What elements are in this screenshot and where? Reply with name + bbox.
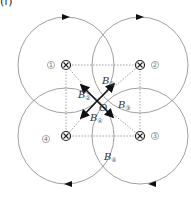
wire-2 [136,61,145,70]
wire-label-1: 1 [49,61,53,68]
magnetic-field-diagram: 1 2 3 4 O B① B② B③ B④ B④ [0,0,191,199]
wire-4 [62,132,71,141]
center-label: O [99,102,107,113]
arrow-icon [136,14,144,20]
label-b-bottom: B④ [103,151,117,163]
arrow-icon [64,181,72,187]
wire-1 [62,61,71,70]
field-circles [18,17,188,184]
label-b4: B④ [89,112,103,124]
field-labels: B① B② B③ B④ B④ [77,75,131,163]
wire-label-3: 3 [153,132,157,139]
wire-label-4: 4 [44,135,48,142]
wire-3 [136,132,145,141]
arrow-icon [148,181,156,187]
wire-label-2: 2 [153,61,157,68]
label-b3: B③ [117,99,131,111]
wires [62,61,145,141]
arrow-icon [62,14,70,20]
